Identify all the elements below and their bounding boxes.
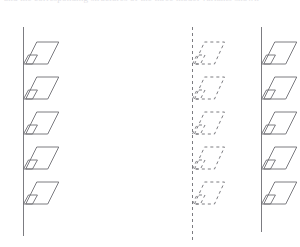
connector-tab xyxy=(193,160,206,169)
unit-middle-strand-3 xyxy=(193,112,225,134)
plate-parallelogram xyxy=(264,112,297,134)
plate-parallelogram xyxy=(264,42,297,64)
strand-right-strand xyxy=(262,27,297,232)
plate-parallelogram xyxy=(195,77,225,99)
unit-right-strand-5 xyxy=(262,182,297,204)
plate-parallelogram xyxy=(264,182,297,204)
connector-tab xyxy=(193,90,206,99)
connector-tab xyxy=(24,55,38,64)
plate-parallelogram xyxy=(195,112,225,134)
connector-tab xyxy=(24,160,38,169)
plate-parallelogram xyxy=(195,182,225,204)
connector-tab xyxy=(193,55,206,64)
unit-middle-strand-5 xyxy=(193,182,225,204)
connector-tab xyxy=(24,125,38,134)
plate-parallelogram xyxy=(26,182,59,204)
unit-right-strand-3 xyxy=(262,112,297,134)
plate-parallelogram xyxy=(26,77,59,99)
connector-tab xyxy=(193,125,206,134)
unit-middle-strand-4 xyxy=(193,147,225,169)
connector-tab xyxy=(262,55,276,64)
strand-middle-strand xyxy=(193,27,225,241)
plate-parallelogram xyxy=(26,112,59,134)
unit-right-strand-2 xyxy=(262,77,297,99)
connector-tab xyxy=(193,195,206,204)
unit-left-strand-4 xyxy=(24,147,59,169)
plate-parallelogram xyxy=(264,77,297,99)
strand-group xyxy=(24,27,297,241)
strand-left-strand xyxy=(24,27,59,236)
connector-tab xyxy=(262,90,276,99)
strand-diagram xyxy=(0,0,300,247)
plate-parallelogram xyxy=(195,147,225,169)
unit-middle-strand-1 xyxy=(193,42,225,64)
unit-right-strand-1 xyxy=(262,42,297,64)
plate-parallelogram xyxy=(264,147,297,169)
unit-left-strand-1 xyxy=(24,42,59,64)
unit-right-strand-4 xyxy=(262,147,297,169)
plate-parallelogram xyxy=(26,42,59,64)
unit-left-strand-2 xyxy=(24,77,59,99)
connector-tab xyxy=(24,90,38,99)
unit-middle-strand-2 xyxy=(193,77,225,99)
unit-left-strand-3 xyxy=(24,112,59,134)
unit-left-strand-5 xyxy=(24,182,59,204)
plate-parallelogram xyxy=(195,42,225,64)
connector-tab xyxy=(24,195,38,204)
connector-tab xyxy=(262,195,276,204)
figure-page: and the corresponding structures of the … xyxy=(0,0,300,247)
plate-parallelogram xyxy=(26,147,59,169)
connector-tab xyxy=(262,125,276,134)
connector-tab xyxy=(262,160,276,169)
